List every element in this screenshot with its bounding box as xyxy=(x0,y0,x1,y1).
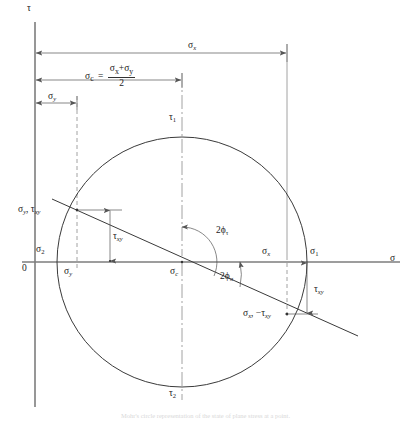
arc-2phi-tau xyxy=(182,227,217,276)
label-point-sigma-y-tau-xy: σy, τxy xyxy=(18,205,41,215)
label-sigma-2: σ2 xyxy=(36,245,44,255)
tau-axis-label: τ xyxy=(27,4,31,14)
fraction-denominator: 2 xyxy=(108,78,136,88)
dim-label-sigma-x: σx xyxy=(188,41,196,51)
label-sigma-c-axis: σc xyxy=(170,267,178,277)
marker-point-B xyxy=(286,313,289,316)
mohr-circle-figure: τ σ 0 σx σc = σx+σy 2 σy τ1 τ2 σ2 σ1 σy … xyxy=(0,0,411,431)
label-tau-xy-left: τxy xyxy=(113,232,123,242)
label-angle-2phi-tau: 2ϕτ xyxy=(216,226,228,236)
dim-label-sigma-y: σy xyxy=(48,92,56,102)
label-tau-xy-right: τxy xyxy=(314,285,324,295)
dimension-lines xyxy=(36,44,287,110)
label-tau-2: τ2 xyxy=(169,389,176,399)
origin-label: 0 xyxy=(22,264,27,274)
figure-caption: Mohr's circle representation of the stat… xyxy=(0,412,411,419)
stress-state-diameter-line xyxy=(52,199,358,336)
label-sigma-y-axis: σy xyxy=(64,267,72,277)
fraction-numerator: σx+σy xyxy=(108,64,136,76)
sigma-axis-label: σ xyxy=(390,254,395,264)
label-angle-2phi-sigma: 2ϕσ xyxy=(220,272,233,282)
dim-label-sigma-c-equation: σc = σx+σy 2 xyxy=(85,64,135,89)
label-point-sigma-x-minus-tau-xy: σx, −τxy xyxy=(243,309,271,319)
marker-center xyxy=(181,261,183,263)
marker-point-A xyxy=(76,209,79,212)
label-sigma-x-axis: σx xyxy=(262,247,270,257)
mohr-circle-svg xyxy=(0,0,411,431)
label-tau-1: τ1 xyxy=(169,113,176,123)
label-sigma-1: σ1 xyxy=(310,247,318,257)
marker-tau-xy-left-base xyxy=(109,260,111,262)
sigma-c-fraction: σx+σy 2 xyxy=(108,64,136,89)
projection-lines xyxy=(77,44,287,400)
